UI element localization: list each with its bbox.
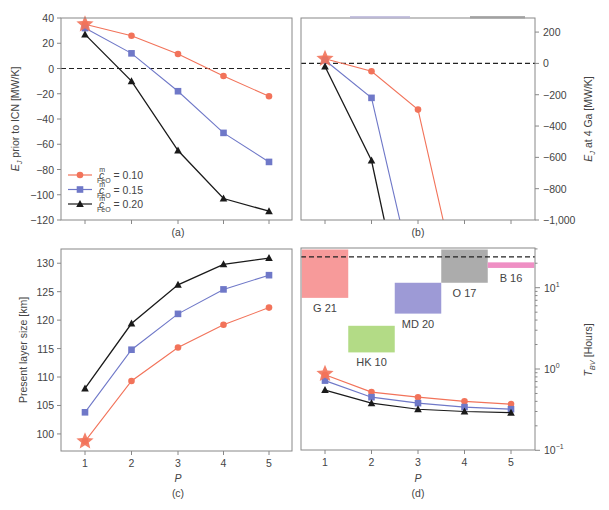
y-tick-label: 20 (42, 37, 54, 49)
x-tick-label: 5 (508, 456, 514, 468)
range-box (395, 283, 442, 314)
marker-circle (220, 73, 227, 80)
y-tick-label: −100 (30, 189, 54, 201)
y-tick-label: 110 (37, 371, 54, 383)
x-tick-label: 3 (415, 456, 421, 468)
y-tick-label: −80 (36, 164, 54, 176)
y-axis-label: EJ prior to ICN [MW/K] (9, 67, 24, 172)
y-tick-label: 0 (543, 57, 549, 69)
y-tick-label: −40 (36, 113, 54, 125)
legend-text: cmFeO = 0.20 (97, 195, 143, 213)
marker-circle (175, 344, 182, 351)
y-tick-label: 120 (36, 314, 54, 326)
y-tick-label: −800 (543, 183, 567, 195)
x-tick-label: 2 (129, 457, 135, 469)
y-tick-label: 125 (36, 286, 54, 298)
y-axis-label: EJ at 4 Ga [MW/K] (582, 76, 597, 162)
figure: 40200−20−40−60−80−100−120EJ prior to ICN… (0, 0, 609, 510)
x-tick-label: 1 (322, 456, 328, 468)
marker-square (220, 286, 227, 293)
x-tick-label: 2 (369, 456, 375, 468)
marker-circle (266, 93, 273, 100)
marker-circle (266, 304, 273, 311)
panel-label-d: (d) (412, 487, 425, 499)
x-tick-label: 1 (82, 457, 88, 469)
panel-label-a: (a) (172, 226, 185, 238)
y-axis-label: TBV [Hours] (582, 323, 597, 376)
marker-circle (220, 321, 227, 328)
x-tick-label: 4 (462, 456, 468, 468)
marker-circle (128, 378, 135, 385)
range-box (348, 326, 395, 353)
x-tick-label: 5 (266, 457, 272, 469)
panel-label-b: (b) (412, 226, 425, 238)
marker-square (82, 409, 89, 416)
marker-triangle (265, 254, 273, 261)
series-line (85, 28, 269, 162)
y-tick-label: −600 (543, 151, 567, 163)
marker-square (175, 88, 182, 95)
x-tick-label: 3 (175, 457, 181, 469)
y-tick-label: 101 (544, 281, 560, 294)
range-label: HK 10 (356, 356, 387, 368)
marker-circle (77, 172, 84, 179)
marker-circle (175, 51, 182, 58)
marker-triangle (81, 30, 89, 37)
y-tick-label: 200 (543, 26, 561, 38)
marker-square (128, 346, 135, 353)
marker-square (266, 272, 273, 279)
y-tick-label: 10−1 (544, 443, 564, 456)
marker-square (266, 159, 273, 166)
marker-circle (461, 398, 468, 405)
panel-b-ej-4ga: 2000−200−400−600−800−1,000EJ at 4 Ga [MW… (301, 16, 597, 377)
print-artifact (350, 16, 410, 19)
star-icon (76, 432, 93, 448)
plot-frame (301, 18, 535, 220)
marker-square (368, 95, 375, 102)
series-line (85, 24, 269, 96)
range-label: MD 20 (402, 318, 434, 330)
y-tick-label: −400 (543, 120, 567, 132)
marker-triangle (368, 156, 376, 163)
series-line (85, 258, 269, 388)
panel-c-layer-size: 10010511011512012513012345Present layer … (17, 249, 292, 499)
marker-square (77, 186, 84, 193)
panel-d-tbv: G 21HK 10MD 20O 17B 1610−110010112345TBV… (301, 248, 597, 499)
range-box (488, 262, 535, 268)
y-tick-label: −1,000 (543, 214, 576, 226)
y-tick-label: −20 (36, 88, 54, 100)
panel-label-c: (c) (172, 487, 184, 499)
range-label: O 17 (453, 287, 477, 299)
range-label: B 16 (500, 272, 523, 284)
y-tick-label: 115 (37, 343, 54, 355)
print-artifact (470, 16, 525, 19)
plot-frame (61, 18, 292, 220)
y-tick-label: 40 (42, 12, 54, 24)
marker-triangle (321, 386, 329, 393)
y-axis-label: Present layer size [km] (17, 297, 29, 403)
y-tick-label: −60 (36, 138, 54, 150)
y-tick-label: 105 (36, 399, 54, 411)
x-axis-label: P (174, 472, 181, 484)
marker-circle (415, 106, 422, 113)
marker-circle (368, 68, 375, 75)
marker-circle (128, 32, 135, 39)
y-tick-label: 100 (36, 428, 54, 440)
y-tick-label: 100 (544, 362, 560, 375)
marker-square (220, 130, 227, 137)
range-box (441, 250, 488, 283)
series-line (85, 275, 269, 412)
series-group (81, 254, 273, 445)
legend-item: cmFeO = 0.10 (68, 166, 143, 184)
y-tick-label: 0 (48, 63, 54, 75)
y-tick-label: 130 (36, 257, 54, 269)
x-tick-label: 4 (221, 457, 227, 469)
marker-square (128, 50, 135, 57)
x-axis-label: P (414, 472, 421, 484)
panel-a-ej-prior-icn: 40200−20−40−60−80−100−120EJ prior to ICN… (9, 12, 292, 238)
y-tick-label: −120 (30, 214, 54, 226)
y-tick-label: −200 (543, 89, 567, 101)
marker-circle (415, 394, 422, 401)
range-label: G 21 (313, 302, 337, 314)
marker-square (175, 311, 182, 318)
